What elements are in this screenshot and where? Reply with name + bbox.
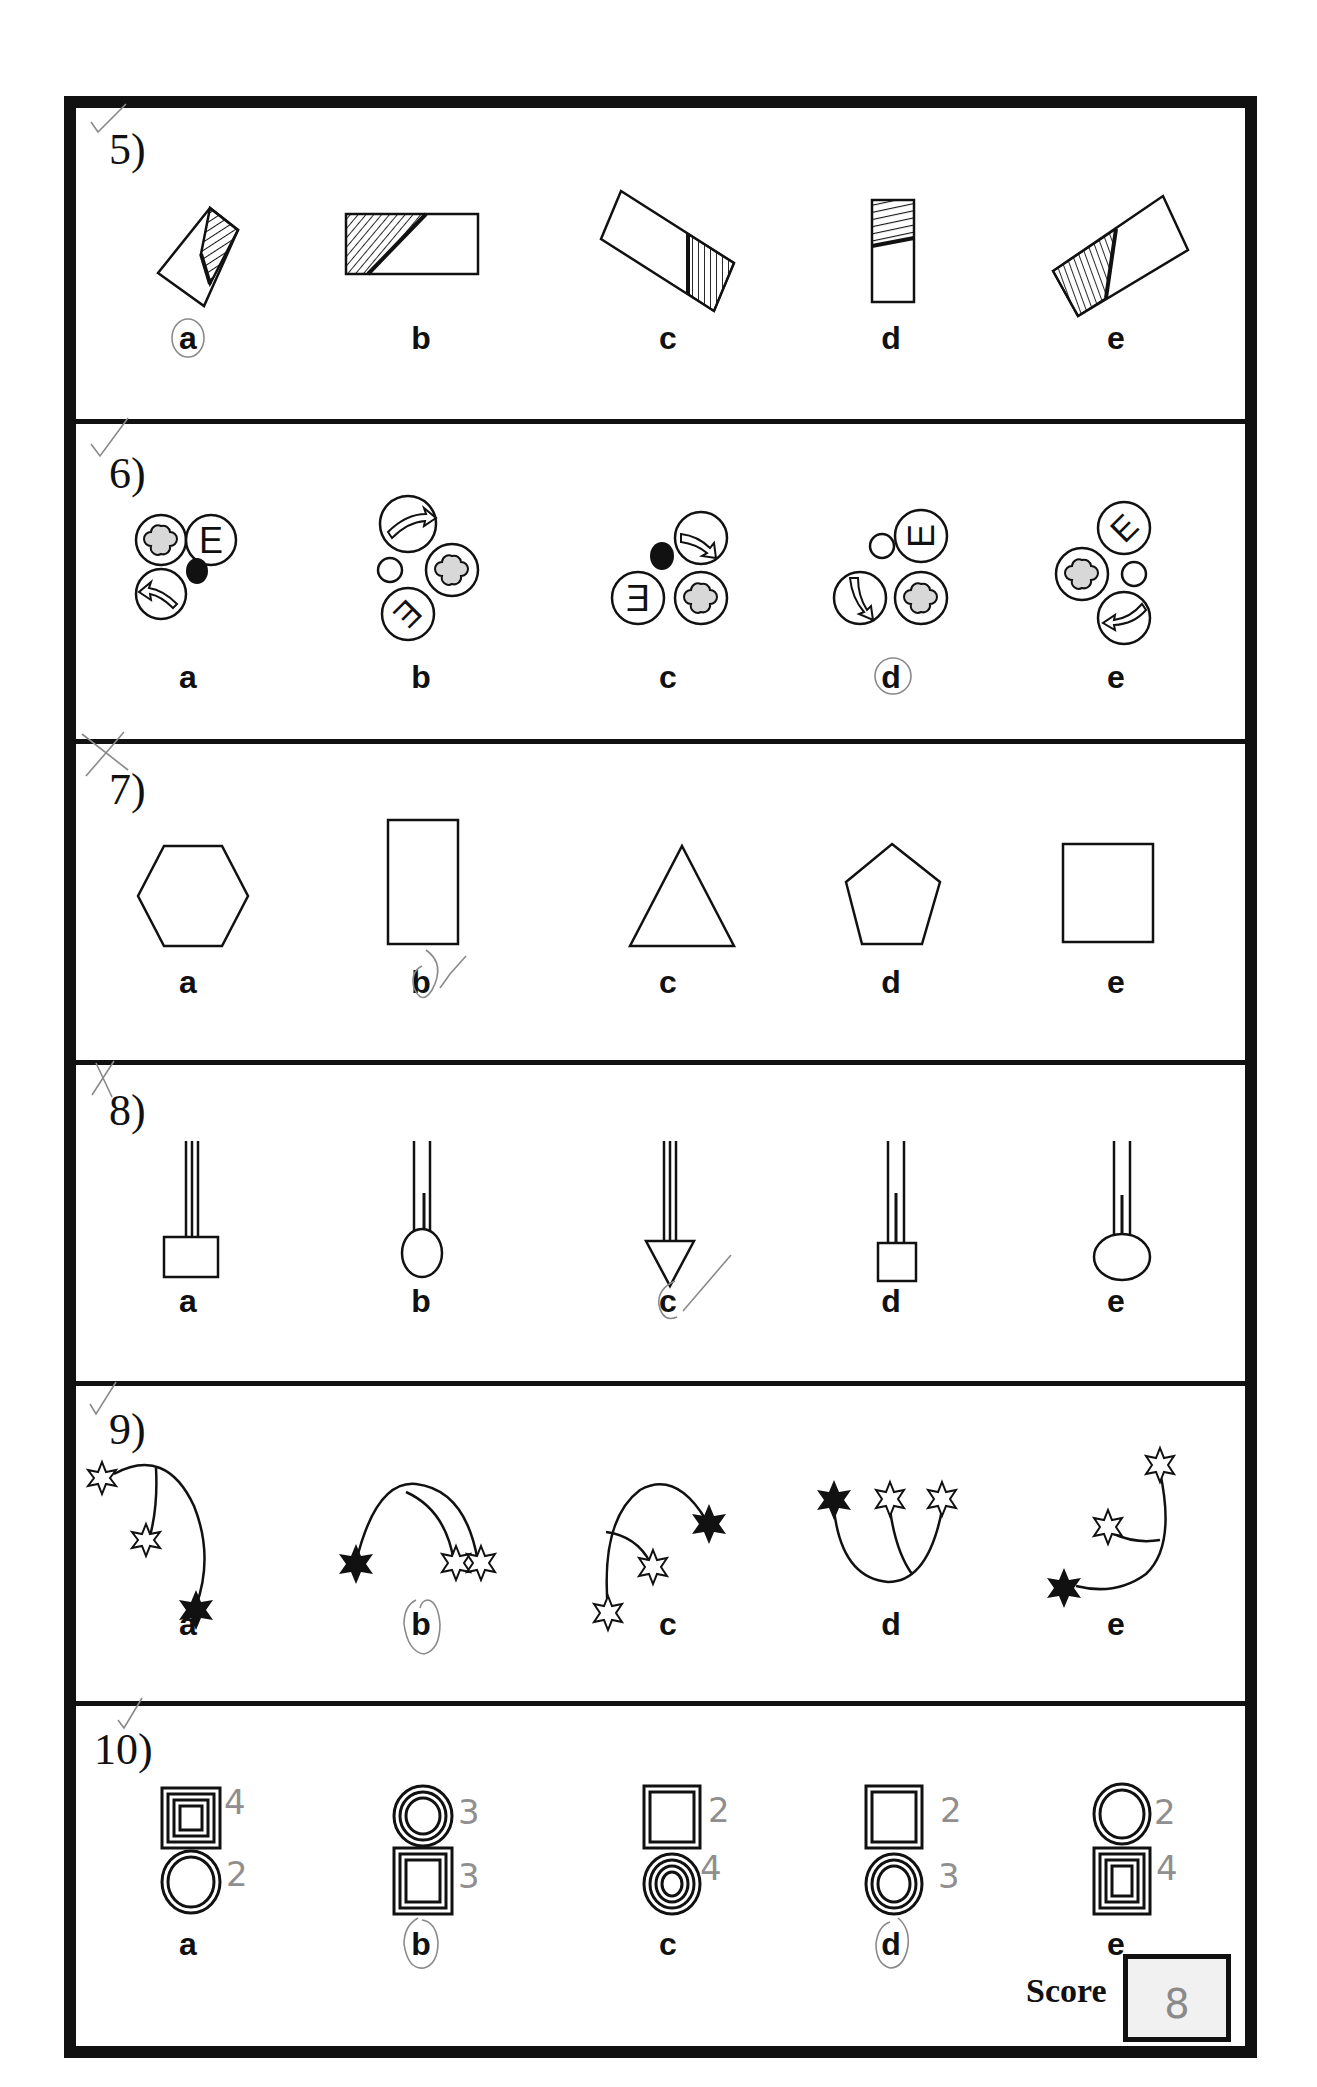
figure-option-a[interactable]: E [133,508,263,638]
option-label-a[interactable]: a [179,1608,197,1640]
answer-circle-icon [166,313,210,363]
option-label-d[interactable]: d [881,966,901,998]
figure-option-b[interactable] [336,1470,516,1590]
answer-circle-icon [641,1245,741,1335]
figure-option-d[interactable]: E [828,504,958,634]
figure-option-c[interactable]: E [606,504,736,634]
figure-option-a[interactable] [162,1141,222,1281]
figure-option-e[interactable] [1061,842,1156,947]
option-label-a[interactable]: a [179,1285,197,1317]
option-label-e[interactable]: e [1107,1285,1125,1317]
option-label-e[interactable]: e [1107,966,1125,998]
check-mark-icon [86,416,136,466]
pencil-count-annotation: 3 [458,1792,480,1832]
figure-option-e[interactable] [1092,1782,1162,1932]
score-label: Score [1026,1972,1107,2010]
figure-option-e[interactable] [1092,1141,1152,1281]
option-label-c[interactable]: c [659,1608,677,1640]
option-label-e[interactable]: e [1107,661,1125,693]
option-label-d[interactable]: d [881,1608,901,1640]
pencil-count-annotation: 4 [224,1782,246,1822]
question-7: 7) a b c d e [76,744,1245,1060]
figure-option-d[interactable] [874,1141,924,1281]
option-label-b[interactable]: b [411,322,431,354]
cross-mark-icon [78,730,138,780]
option-label-e[interactable]: e [1107,322,1125,354]
cross-mark-icon [84,1057,134,1107]
option-label-e[interactable]: e [1107,1608,1125,1640]
option-label-d[interactable]: d [881,322,901,354]
pencil-count-annotation: 2 [1154,1792,1176,1832]
figure-option-c[interactable] [628,844,738,949]
check-mark-icon [114,1696,154,1736]
figure-option-d[interactable] [844,842,944,947]
question-10: 10) 4 2 a 3 [76,1706,1245,2046]
figure-option-b[interactable] [386,818,461,948]
question-6: 6) E a E [76,424,1245,739]
option-label-c[interactable]: c [659,966,677,998]
answer-circle-icon [868,1914,918,1974]
answer-circle-icon [398,1914,448,1974]
option-label-a[interactable]: a [179,661,197,693]
figure-option-a[interactable] [136,844,256,949]
option-label-c[interactable]: c [659,661,677,693]
option-label-c[interactable]: c [659,322,677,354]
question-5: 5) a [76,108,1245,419]
figure-option-b[interactable]: E [376,492,486,642]
figure-option-b[interactable] [392,1784,462,1934]
figure-option-c[interactable] [596,186,746,326]
svg-text:E: E [199,520,223,561]
svg-text:E: E [626,578,650,619]
svg-text:E: E [901,524,942,548]
option-label-d[interactable]: d [881,1285,901,1317]
figure-option-d[interactable] [816,1478,976,1598]
option-label-c[interactable]: c [659,1928,677,1960]
figure-option-d[interactable] [864,1784,934,1934]
question-8: 8) a b [76,1065,1245,1381]
figure-option-e[interactable] [1048,186,1198,326]
pencil-count-annotation: 2 [708,1790,730,1830]
figure-option-a[interactable] [86,1456,246,1626]
check-mark-icon [86,1380,126,1420]
pencil-count-annotation: 2 [940,1790,962,1830]
score-box: 8 [1123,1954,1231,2042]
pencil-count-annotation: 2 [226,1854,248,1894]
figure-option-e[interactable]: E [1054,492,1174,642]
figure-option-b[interactable] [344,212,484,282]
answer-circle-icon [869,652,919,702]
score-value: 8 [1128,1981,1226,2027]
check-mark-icon [86,100,136,140]
answer-circle-icon [394,1592,454,1662]
figure-option-e[interactable] [1036,1436,1186,1606]
option-label-b[interactable]: b [411,1285,431,1317]
pencil-count-annotation: 4 [1156,1848,1178,1888]
option-label-a[interactable]: a [179,1928,197,1960]
question-9: 9) a b [76,1386,1245,1701]
answer-circle-icon [396,944,486,1014]
figure-option-a[interactable] [160,1786,230,1936]
pencil-count-annotation: 3 [938,1856,960,1896]
figure-option-d[interactable] [870,198,920,308]
worksheet: 5) a [64,96,1257,2058]
option-label-b[interactable]: b [411,661,431,693]
pencil-count-annotation: 3 [458,1856,480,1896]
option-label-a[interactable]: a [179,966,197,998]
pencil-count-annotation: 4 [700,1848,722,1888]
figure-option-b[interactable] [400,1141,450,1281]
